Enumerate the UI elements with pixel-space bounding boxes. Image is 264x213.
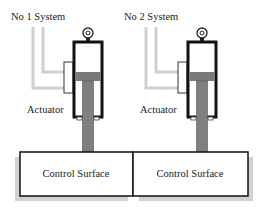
system-2-label: No 2 System [124, 11, 178, 22]
system-1-pressure-line [43, 27, 64, 72]
system-1-attachment-eye-icon [83, 28, 93, 38]
system-2-pressure-line [156, 27, 178, 72]
system-1-piston [76, 72, 101, 81]
control-surface-1-label: Control Surface [43, 168, 110, 179]
system-2-attachment-eye-icon [197, 28, 207, 38]
control-surfaces: Control Surface Control Surface [15, 152, 253, 201]
system-1-valve-block [64, 62, 73, 93]
system-2-valve-block [178, 62, 187, 93]
system-2-piston [190, 72, 215, 81]
system-1-piston-rod [83, 81, 94, 153]
control-surface-2-label: Control Surface [157, 168, 224, 179]
system-1-hydraulic-lines [33, 27, 64, 88]
system-2-piston-rod [197, 81, 208, 153]
system-1-return-line [33, 27, 64, 88]
system-1-actuator-label: Actuator [27, 104, 64, 115]
system-1-label: No 1 System [11, 11, 65, 22]
system-2-return-line [146, 27, 178, 88]
system-2-actuator-label: Actuator [140, 104, 177, 115]
system-2: No 2 System Actuator [124, 11, 216, 153]
system-2-hydraulic-lines [146, 27, 178, 88]
system-1: No 1 System Actuator [11, 11, 102, 153]
diagram-canvas: No 1 System Actuator No 2 System [0, 0, 264, 213]
